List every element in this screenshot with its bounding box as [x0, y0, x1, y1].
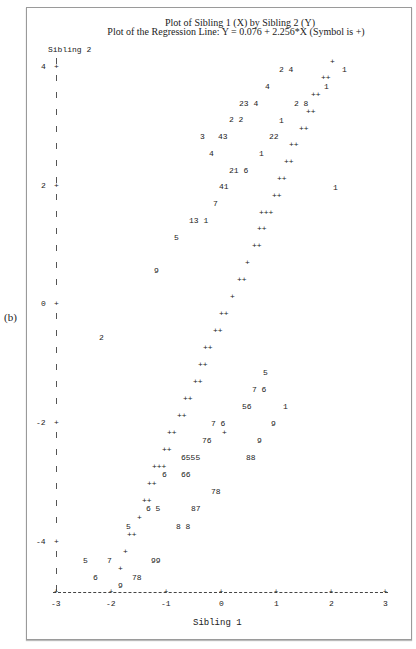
regression-line-symbol: ++ — [219, 310, 229, 318]
regression-line-symbol: ++ — [321, 74, 331, 82]
y-axis-bar — [56, 160, 57, 166]
data-point-symbol: 78 — [132, 574, 142, 582]
regression-line-symbol: ++ — [252, 242, 262, 250]
regression-line-symbol: +++ — [259, 209, 273, 217]
y-tick-label: -4 — [36, 538, 46, 546]
data-point-symbol: 7 — [107, 557, 112, 565]
data-point-symbol: 6 — [162, 471, 167, 479]
y-axis-bar — [56, 313, 57, 319]
data-point-symbol: 1 — [259, 150, 264, 158]
data-point-symbol: 43 — [218, 133, 228, 141]
data-point-symbol: 1 — [283, 403, 288, 411]
y-axis-label: Sibling 2 — [48, 46, 91, 54]
data-point-symbol: 87 — [191, 505, 201, 513]
plot-frame — [26, 7, 412, 640]
y-axis-bar — [56, 245, 57, 251]
regression-line-symbol: ++ — [237, 276, 247, 284]
regression-line-symbol: ++ — [203, 344, 213, 352]
data-point-symbol: 6555 — [181, 454, 200, 462]
y-axis-bar — [56, 194, 57, 200]
regression-line-symbol: ++ — [193, 378, 203, 386]
y-tick-mark: + — [54, 419, 59, 427]
data-point-symbol: 5 — [263, 369, 268, 377]
y-axis-bar — [56, 143, 57, 149]
regression-line-symbol: ++ — [198, 361, 208, 369]
y-axis-bar — [56, 92, 57, 98]
y-axis-bar — [56, 347, 57, 353]
data-point-symbol: 76 — [202, 437, 212, 445]
data-point-symbol: 7 6 — [252, 386, 266, 394]
regression-line-symbol: ++ — [213, 327, 223, 335]
data-point-symbol: 41 — [219, 183, 229, 191]
y-axis-bar — [56, 262, 57, 268]
x-tick-label: -3 — [51, 600, 61, 608]
regression-line-symbol: + — [230, 293, 235, 301]
data-point-symbol: 2 — [99, 334, 104, 342]
regression-line-symbol: ++ — [147, 480, 157, 488]
regression-line-symbol: ++ — [272, 192, 282, 200]
data-point-symbol: 66 — [181, 471, 191, 479]
data-point-symbol: 3 — [200, 133, 205, 141]
data-point-symbol: 9 — [257, 437, 262, 445]
x-tick-label: -2 — [106, 600, 116, 608]
y-tick-mark: + — [54, 182, 59, 190]
data-point-symbol: 99 — [151, 557, 161, 565]
data-point-symbol: 22 — [269, 133, 279, 141]
data-point-symbol: 8 8 — [176, 523, 190, 531]
x-tick-mark: + — [54, 589, 58, 596]
regression-line-symbol: ++ — [289, 141, 299, 149]
regression-line-symbol: ++ — [277, 175, 287, 183]
x-tick-label: 1 — [274, 600, 279, 608]
regression-line-symbol: ++ — [127, 531, 137, 539]
regression-line-symbol: ++ — [306, 108, 316, 116]
x-axis-label: Sibling 1 — [193, 619, 242, 628]
x-tick-mark: + — [274, 589, 278, 596]
y-tick-label: 2 — [41, 182, 46, 190]
x-tick-label: -1 — [161, 600, 171, 608]
regression-line-symbol: + — [137, 514, 142, 522]
data-point-symbol: 9 — [271, 420, 276, 428]
data-point-symbol: 1 — [324, 83, 329, 91]
data-point-symbol: 6 — [93, 574, 98, 582]
data-point-symbol: 1 — [279, 117, 284, 125]
y-axis-bar — [56, 109, 57, 115]
data-point-symbol: 7 6 — [211, 420, 225, 428]
data-point-symbol: 5 — [83, 557, 88, 565]
regression-line-symbol: ++ — [177, 412, 187, 420]
y-axis-bar — [56, 432, 57, 438]
y-axis-bar — [56, 330, 57, 336]
y-axis-bar — [56, 483, 57, 489]
x-tick-mark: + — [164, 589, 168, 596]
regression-line-symbol: ++ — [311, 91, 321, 99]
regression-line-symbol: ++ — [284, 158, 294, 166]
x-tick-label: 2 — [329, 600, 334, 608]
y-axis-bar — [56, 449, 57, 455]
y-tick-mark: + — [54, 63, 59, 71]
x-tick-mark: + — [383, 589, 387, 596]
data-point-symbol: 23 4 — [239, 100, 258, 108]
data-point-symbol: 1 — [333, 184, 338, 192]
panel-label: (b) — [4, 311, 17, 323]
regression-line-symbol: ++ — [183, 395, 193, 403]
data-point-symbol: 88 — [246, 454, 256, 462]
y-axis-bar — [56, 398, 57, 404]
chart-subtitle: Plot of the Regression Line: Y = 0.076 +… — [28, 26, 416, 37]
data-point-symbol: 56 — [242, 403, 252, 411]
y-axis-bar — [56, 364, 57, 370]
y-tick-label: 4 — [41, 63, 46, 71]
x-tick-label: 0 — [219, 600, 224, 608]
y-tick-mark: + — [54, 538, 59, 546]
regression-line-symbol: + — [330, 58, 335, 66]
x-tick-label: 3 — [383, 600, 388, 608]
x-tick-mark: + — [109, 589, 113, 596]
y-tick-mark: + — [54, 300, 59, 308]
regression-line-symbol: + — [118, 565, 123, 573]
regression-line-symbol: + — [222, 429, 227, 437]
y-tick-label: 0 — [41, 300, 46, 308]
data-point-symbol: 9 — [118, 582, 123, 590]
regression-line-symbol: ++ — [257, 225, 267, 233]
data-point-symbol: 2 4 — [279, 66, 293, 74]
regression-line-symbol: ++ — [162, 446, 172, 454]
data-point-symbol: 7 — [213, 200, 218, 208]
y-tick-label: -2 — [36, 419, 46, 427]
